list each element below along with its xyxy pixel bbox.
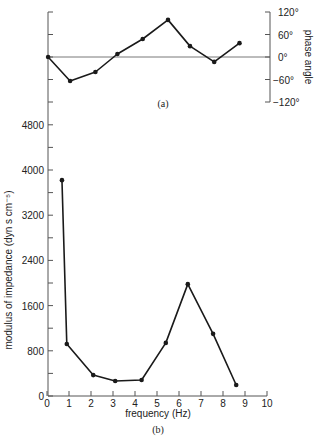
phase-angle-series: [46, 18, 242, 84]
frequency-tick-label: 1: [66, 398, 72, 409]
frequency-tick-label: 0: [44, 398, 50, 409]
data-point: [60, 178, 65, 183]
data-point: [237, 41, 242, 46]
frequency-tick-label: 7: [198, 398, 204, 409]
data-point: [113, 379, 118, 384]
phase-tick-label: 60°: [278, 30, 293, 41]
frequency-tick-label: 9: [242, 398, 248, 409]
frequency-tick-label: 3: [110, 398, 116, 409]
impedance-axis-title: modulus of impedance (dyn s cm⁻⁵): [3, 190, 14, 349]
impedance-tick-label: 4000: [22, 165, 45, 176]
phase-axis-title: phase angle: [303, 30, 314, 85]
panel-a-label: (a): [157, 98, 168, 110]
phase-tick-label: −120°: [273, 97, 300, 108]
data-point: [46, 55, 51, 60]
data-point: [166, 18, 171, 23]
frequency-axis-title: frequency (Hz): [125, 408, 191, 419]
frequency-tick-label: 8: [220, 398, 226, 409]
impedance-tick-label: 800: [27, 346, 44, 357]
series-line: [48, 20, 239, 81]
data-point: [188, 44, 193, 49]
impedance-tick-label: 3200: [22, 210, 45, 221]
data-point: [186, 282, 191, 287]
data-point: [115, 52, 120, 57]
data-point: [93, 70, 98, 75]
data-point: [65, 342, 70, 347]
data-point: [139, 378, 144, 383]
frequency-tick-label: 10: [261, 398, 273, 409]
data-point: [91, 373, 96, 378]
data-point: [140, 37, 145, 42]
panel-b-label: (b): [152, 424, 164, 436]
impedance-tick-label: 4800: [22, 120, 45, 131]
data-point: [164, 341, 169, 346]
impedance-series: [60, 178, 239, 387]
impedance-tick-label: 2400: [22, 255, 45, 266]
impedance-phase-chart: 120°60°0°−60°−120°0800160024003200400048…: [0, 0, 318, 442]
data-point: [212, 60, 217, 65]
phase-tick-label: 0°: [278, 52, 288, 63]
impedance-tick-label: 1600: [22, 301, 45, 312]
series-line: [62, 180, 236, 385]
chart-labels: (a) (b) phase angle modulus of impedance…: [3, 30, 314, 436]
data-point: [211, 332, 216, 337]
frequency-tick-label: 2: [88, 398, 94, 409]
data-point: [234, 383, 239, 388]
phase-tick-label: 120°: [278, 7, 299, 18]
data-point: [68, 79, 73, 84]
phase-tick-label: −60°: [273, 75, 294, 86]
